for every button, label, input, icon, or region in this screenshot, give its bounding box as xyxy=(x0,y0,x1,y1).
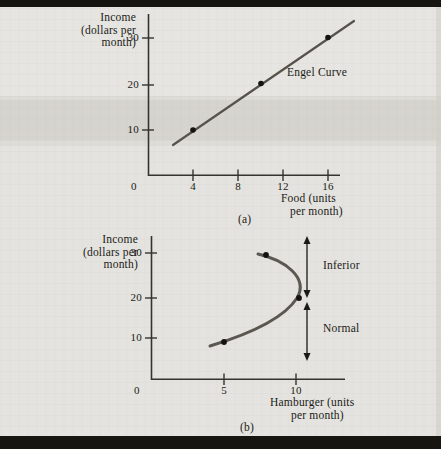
panel-b-caption: (b) xyxy=(240,421,254,433)
chart-a-y-axis-title-line2: (dollars per xyxy=(28,24,136,37)
engel-curve-point-1 xyxy=(190,127,196,133)
chart-b-ytick-label-30: 30 xyxy=(126,246,142,258)
chart-a-ytick-label-20: 20 xyxy=(123,78,139,90)
engel-curve-point-2 xyxy=(258,81,264,87)
chart-a-xtick-label-12: 12 xyxy=(275,180,291,192)
income-consumption-point-2 xyxy=(296,295,302,301)
chart-a-xtick-label-4: 4 xyxy=(185,180,201,192)
chart-b-y-axis-title-line3: month) xyxy=(30,258,138,271)
chart-b-origin-label: 0 xyxy=(134,384,140,396)
chart-a-xtick-label-8: 8 xyxy=(230,180,246,192)
inferior-region-label: Inferior xyxy=(323,259,360,271)
normal-range-arrow xyxy=(304,302,311,361)
chart-b-y-axis-title-line1: Income xyxy=(30,233,138,246)
chart-b-xtick-label-5: 5 xyxy=(216,384,232,396)
normal-region-label: Normal xyxy=(323,322,359,334)
chart-a-origin-label: 0 xyxy=(131,180,137,192)
chart-a-ytick-label-30: 30 xyxy=(123,31,139,43)
chart-a-y-axis-title: Income (dollars per month) xyxy=(28,11,136,49)
chart-a-x-axis-title-line2: per month) xyxy=(281,205,391,218)
inferior-range-arrow xyxy=(304,236,311,298)
engel-curve-label: Engel Curve xyxy=(287,66,347,78)
scanned-page: Income (dollars per month) 30 20 10 0 4 … xyxy=(0,0,441,449)
chart-panel-a: Income (dollars per month) 30 20 10 0 4 … xyxy=(0,0,441,222)
panel-a-caption: (a) xyxy=(238,213,251,225)
chart-b-x-axis-title: Hamburger (units per month) xyxy=(270,396,410,421)
chart-b-y-axis-title: Income (dollars per month) xyxy=(30,233,138,271)
chart-a-xtick-label-16: 16 xyxy=(320,180,336,192)
chart-b-y-axis-title-line2: (dollars per xyxy=(30,246,138,259)
income-consumption-curve xyxy=(210,254,300,346)
chart-b-x-axis-title-line2: per month) xyxy=(270,409,410,422)
income-consumption-point-3 xyxy=(263,252,269,258)
chart-b-ytick-label-10: 10 xyxy=(126,331,142,343)
chart-b-ytick-label-20: 20 xyxy=(126,291,142,303)
engel-curve-point-3 xyxy=(325,35,331,41)
chart-a-ytick-label-10: 10 xyxy=(123,123,139,135)
income-consumption-point-1 xyxy=(221,339,227,345)
chart-a-y-axis-title-line1: Income xyxy=(28,11,136,24)
chart-b-xtick-label-10: 10 xyxy=(288,384,304,396)
chart-panel-b: Income (dollars per month) 30 20 10 0 5 … xyxy=(0,228,441,438)
chart-a-x-axis-title: Food (units per month) xyxy=(281,192,391,217)
chart-b-x-axis-title-line1: Hamburger (units xyxy=(270,396,410,409)
chart-a-y-axis-title-line3: month) xyxy=(28,36,136,49)
chart-a-x-axis-title-line1: Food (units xyxy=(281,192,391,205)
